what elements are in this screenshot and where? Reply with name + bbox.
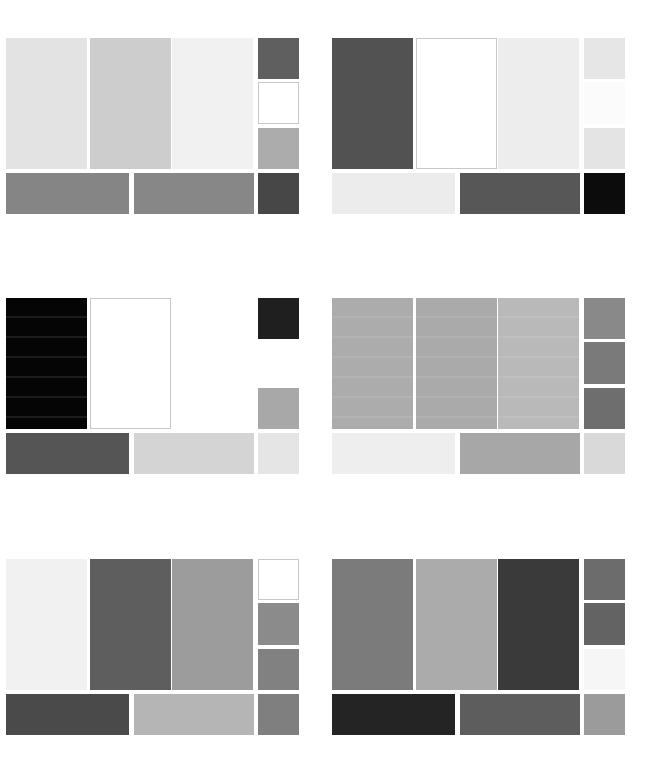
swatch-small-1 xyxy=(584,559,625,600)
swatch-tall-1 xyxy=(6,38,87,169)
panel-6 xyxy=(332,559,626,736)
swatch-small-3 xyxy=(258,649,299,690)
swatch-wide-2 xyxy=(460,433,580,474)
swatch-tall-2 xyxy=(90,298,171,429)
panel-4 xyxy=(332,298,626,475)
swatch-tall-2 xyxy=(416,38,497,169)
swatch-tall-1 xyxy=(332,559,413,690)
swatch-wide-2 xyxy=(134,173,254,214)
swatch-wide-2 xyxy=(460,173,580,214)
swatch-wide-1 xyxy=(6,173,129,214)
swatch-wide-1 xyxy=(6,694,129,735)
swatch-tall-2 xyxy=(90,559,171,690)
swatch-tall-3 xyxy=(172,559,253,690)
swatch-tall-1 xyxy=(6,298,87,429)
swatch-wide-2 xyxy=(134,694,254,735)
swatch-tall-2 xyxy=(416,559,497,690)
swatch-small-4 xyxy=(584,173,625,214)
swatch-wide-2 xyxy=(134,433,254,474)
swatch-tall-3 xyxy=(498,298,579,429)
swatch-small-1 xyxy=(258,38,299,79)
swatch-wide-1 xyxy=(6,433,129,474)
swatch-small-1 xyxy=(584,38,625,79)
swatch-wide-1 xyxy=(332,694,455,735)
swatch-small-3 xyxy=(584,649,625,690)
swatch-small-4 xyxy=(584,433,625,474)
swatch-wide-1 xyxy=(332,433,455,474)
swatch-tall-1 xyxy=(332,38,413,169)
panel-2 xyxy=(332,38,626,215)
swatch-tall-2 xyxy=(416,298,497,429)
swatch-tall-3 xyxy=(498,38,579,169)
swatch-small-2 xyxy=(584,342,625,384)
swatch-small-3 xyxy=(258,388,299,429)
swatch-small-3 xyxy=(258,128,299,169)
swatch-small-1 xyxy=(584,298,625,339)
swatch-small-1 xyxy=(258,559,299,600)
swatch-small-4 xyxy=(258,173,299,214)
swatch-small-1 xyxy=(258,298,299,339)
swatch-tall-3 xyxy=(498,559,579,690)
swatch-small-4 xyxy=(584,694,625,735)
swatch-tall-3 xyxy=(172,298,253,429)
swatch-tall-1 xyxy=(6,559,87,690)
swatch-tall-2 xyxy=(90,38,171,169)
swatch-wide-1 xyxy=(332,173,455,214)
swatch-small-3 xyxy=(584,388,625,429)
swatch-small-2 xyxy=(258,603,299,645)
swatch-small-2 xyxy=(258,342,299,384)
swatch-small-3 xyxy=(584,128,625,169)
swatch-tall-3 xyxy=(172,38,253,169)
panel-5 xyxy=(6,559,300,736)
swatch-small-2 xyxy=(584,603,625,645)
panel-3 xyxy=(6,298,300,475)
swatch-small-2 xyxy=(258,82,299,124)
panel-1 xyxy=(6,38,300,215)
swatch-small-2 xyxy=(584,82,625,124)
swatch-small-4 xyxy=(258,694,299,735)
swatch-small-4 xyxy=(258,433,299,474)
swatch-wide-2 xyxy=(460,694,580,735)
swatch-tall-1 xyxy=(332,298,413,429)
